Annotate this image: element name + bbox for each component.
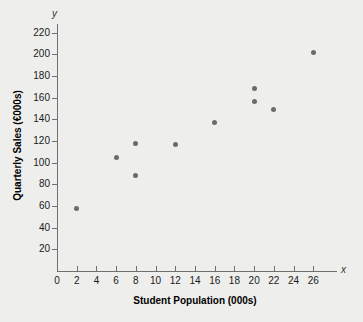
x-tick-label: 12 — [165, 276, 185, 286]
x-tick — [116, 266, 117, 272]
y-tick — [52, 98, 58, 99]
x-tick-label: 24 — [284, 276, 304, 286]
x-tick-label: 26 — [303, 276, 323, 286]
y-axis-name: y — [52, 8, 57, 19]
x-tick-label: 4 — [86, 276, 106, 286]
y-tick — [52, 184, 58, 185]
y-tick — [52, 76, 58, 77]
x-tick — [156, 266, 157, 272]
x-tick-label: 14 — [185, 276, 205, 286]
x-tick-label: 20 — [244, 276, 264, 286]
y-axis-title: Quarterly Sales (€000s) — [12, 66, 23, 226]
data-point — [212, 120, 217, 125]
y-tick-label-wrap: 20 — [12, 244, 50, 254]
x-tick — [77, 266, 78, 272]
data-point — [252, 99, 257, 104]
y-tick — [52, 119, 58, 120]
y-tick-label: 200 — [16, 49, 50, 59]
data-point — [74, 206, 79, 211]
y-axis-line — [57, 24, 58, 272]
x-tick — [313, 266, 314, 272]
x-tick-label: 10 — [146, 276, 166, 286]
y-tick — [52, 141, 58, 142]
x-tick — [234, 266, 235, 272]
data-point — [311, 50, 316, 55]
y-tick — [52, 206, 58, 207]
x-tick-label: 16 — [205, 276, 225, 286]
scatter-chart-figure: y x 20406080100120140160180200220 024681… — [0, 0, 363, 322]
y-tick — [52, 249, 58, 250]
x-axis-line — [57, 271, 337, 272]
x-tick — [215, 266, 216, 272]
data-point — [133, 173, 138, 178]
x-tick-label: 22 — [264, 276, 284, 286]
x-axis-title: Student Population (000s) — [57, 295, 333, 306]
x-tick — [175, 266, 176, 272]
x-axis-name: x — [341, 264, 346, 275]
x-tick-label: 8 — [126, 276, 146, 286]
y-tick — [52, 33, 58, 34]
x-tick — [195, 266, 196, 272]
x-tick — [136, 266, 137, 272]
x-tick-label: 18 — [224, 276, 244, 286]
x-tick — [96, 266, 97, 272]
y-tick-label: 20 — [16, 244, 50, 254]
y-tick — [52, 163, 58, 164]
x-tick-label: 0 — [47, 276, 67, 286]
y-tick-label-wrap: 220 — [12, 28, 50, 38]
data-point — [252, 86, 257, 91]
data-point — [271, 107, 276, 112]
data-point — [173, 142, 178, 147]
x-tick — [294, 266, 295, 272]
data-point — [133, 141, 138, 146]
x-tick — [254, 266, 255, 272]
y-tick — [52, 54, 58, 55]
data-point — [114, 155, 119, 160]
x-tick — [274, 266, 275, 272]
y-tick — [52, 228, 58, 229]
x-tick-label: 2 — [67, 276, 87, 286]
x-tick-label: 6 — [106, 276, 126, 286]
y-tick-label-wrap: 200 — [12, 49, 50, 59]
y-tick-label: 220 — [16, 28, 50, 38]
